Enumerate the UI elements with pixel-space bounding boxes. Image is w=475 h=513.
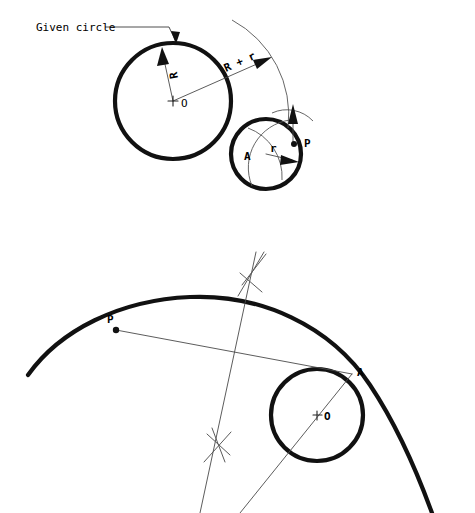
figure-labels: Given circle R O R + r A r P P A O xyxy=(0,0,475,513)
diagram-root: Given circle R O R + r A r P P A O xyxy=(0,0,475,513)
center-o-label: O xyxy=(181,97,188,110)
radius-r-label: R xyxy=(167,71,181,80)
center-o-label-lower: O xyxy=(324,410,331,423)
given-circle-label: Given circle xyxy=(36,21,115,34)
point-a-label-lower: A xyxy=(357,366,364,379)
tangent-point-p-label: P xyxy=(304,137,311,150)
center-a-label: A xyxy=(244,150,251,163)
radius-sum-label: R + r xyxy=(222,49,258,74)
point-p-label-lower: P xyxy=(107,313,114,326)
radius-small-label: r xyxy=(270,142,277,155)
